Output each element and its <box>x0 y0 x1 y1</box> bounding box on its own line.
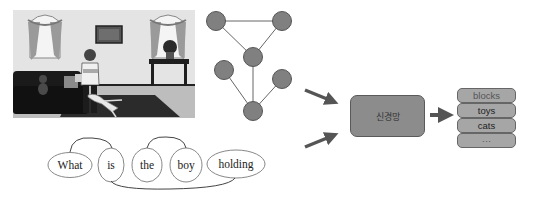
arrow-graph-to-network <box>305 90 332 101</box>
answer-item: ··· <box>457 133 516 148</box>
graph-node <box>273 70 292 89</box>
word-the: the <box>140 159 154 171</box>
arrow-question-to-network <box>305 136 332 147</box>
answer-item: cats <box>457 118 516 133</box>
word-boy: boy <box>177 159 194 171</box>
graph-node <box>244 102 263 121</box>
dependency-arc <box>111 178 235 189</box>
answer-list: blocks toys cats ··· <box>457 88 516 148</box>
word-holding: holding <box>218 158 253 170</box>
graph-nodes <box>207 12 292 121</box>
dependency-arc <box>147 137 186 148</box>
answer-item: toys <box>457 103 516 118</box>
graph-node <box>207 12 226 31</box>
word-is: is <box>107 159 115 171</box>
graph-node <box>273 12 292 31</box>
graph-node <box>215 61 234 80</box>
word-what: What <box>58 159 83 171</box>
neural-network-label: 신경망 <box>376 110 400 123</box>
graph-node <box>244 48 263 67</box>
neural-network-box: 신경망 <box>350 95 425 137</box>
answer-item: blocks <box>457 88 516 103</box>
